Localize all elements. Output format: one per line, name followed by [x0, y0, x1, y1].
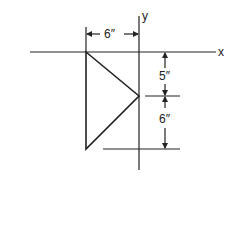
- triangle: [86, 52, 139, 149]
- lower-dimension-label: 6″: [159, 112, 171, 126]
- triangle-diagram: x y 6″ 5″ 6″: [0, 0, 236, 236]
- horizontal-dimension-label: 6″: [104, 27, 116, 41]
- upper-dimension-label: 5″: [159, 69, 171, 83]
- x-axis-label: x: [218, 45, 224, 59]
- y-axis-label: y: [142, 9, 148, 23]
